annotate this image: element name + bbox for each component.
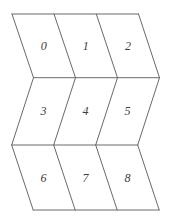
- cell-label-3: 3: [40, 104, 47, 118]
- cell-label-5: 5: [125, 104, 131, 118]
- cell-label-6: 6: [40, 171, 46, 185]
- cell-label-0: 0: [41, 39, 47, 53]
- cell-side-edge: [54, 78, 76, 145]
- cell-side-edge: [138, 145, 160, 210]
- cell-side-edge: [96, 145, 118, 210]
- cell-side-edge: [96, 78, 118, 145]
- cell-side-edge: [54, 14, 76, 78]
- parallelogram-grid-diagram: 012345678: [0, 0, 169, 219]
- cell-label-2: 2: [125, 39, 131, 53]
- cell-side-edge: [12, 14, 34, 78]
- cell-side-edge: [12, 145, 34, 210]
- cell-side-edge: [12, 78, 34, 145]
- cell-side-edge: [139, 14, 160, 78]
- cell-label-1: 1: [83, 39, 89, 53]
- cell-side-edge: [54, 145, 75, 210]
- cell-label-7: 7: [82, 171, 89, 185]
- cell-side-edge: [138, 78, 160, 145]
- cell-side-edge: [96, 14, 117, 78]
- cell-label-4: 4: [83, 104, 89, 118]
- cell-label-8: 8: [124, 171, 130, 185]
- diagram-canvas: 012345678: [0, 0, 169, 219]
